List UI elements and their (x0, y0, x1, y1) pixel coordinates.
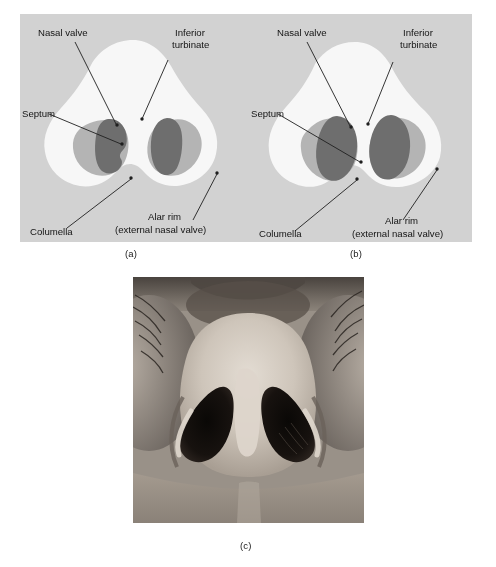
label-inferior-turbinate-line1: Inferior (175, 27, 206, 38)
photo-panel-c (133, 277, 364, 523)
label-columella: Columella (30, 226, 73, 237)
label-columella: Columella (259, 228, 302, 239)
label-septum: Septum (251, 108, 284, 119)
diagram-panel-a: Nasal valve Inferior turbinate Septum Co… (20, 14, 247, 242)
label-alar-rim-line2: (external nasal valve) (352, 228, 443, 239)
label-alar-rim-line2: (external nasal valve) (115, 224, 206, 235)
label-alar-rim-line1: Alar rim (148, 211, 181, 222)
diagram-panel-b: Nasal valve Inferior turbinate Septum Co… (245, 14, 472, 242)
label-inferior-turbinate-line2: turbinate (400, 39, 437, 50)
label-inferior-turbinate-line1: Inferior (403, 27, 434, 38)
label-septum: Septum (22, 108, 55, 119)
label-inferior-turbinate-line2: turbinate (172, 39, 209, 50)
panel-caption-b: (b) (350, 248, 362, 259)
label-alar-rim-line1: Alar rim (385, 215, 418, 226)
figure-root: Nasal valve Inferior turbinate Septum Co… (0, 0, 496, 567)
nostril-right-turbinate-region-a (151, 118, 182, 175)
label-nasal-valve: Nasal valve (38, 27, 88, 38)
photo-grain (133, 277, 364, 523)
panel-caption-c: (c) (240, 540, 252, 551)
label-nasal-valve: Nasal valve (277, 27, 327, 38)
panel-caption-a: (a) (125, 248, 137, 259)
